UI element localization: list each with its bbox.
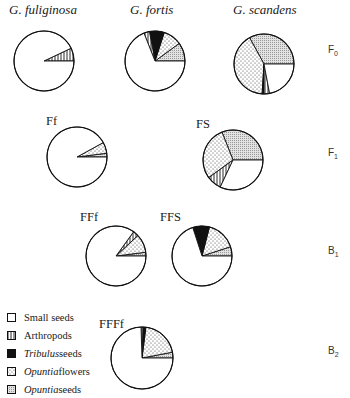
legend-item-tribulus-seeds: Tribulus seeds: [7, 344, 90, 362]
legend: Small seeds Arthropods Tribulus seeds Op…: [7, 308, 90, 398]
legend-item-opuntia-seeds: Opuntia seeds: [7, 380, 90, 398]
pie-slice-opuntia-flowers: [142, 327, 172, 358]
arthropods-swatch-icon: [7, 331, 16, 340]
legend-item-small-seeds: Small seeds: [7, 308, 90, 326]
opuntia-flowers-swatch-icon: [7, 367, 16, 376]
small-seeds-swatch-icon: [7, 313, 16, 322]
legend-item-arthropods: Arthropods: [7, 326, 90, 344]
legend-item-opuntia-flowers: Opuntia flowers: [7, 362, 90, 380]
tribulus-seeds-swatch-icon: [7, 349, 16, 358]
opuntia-seeds-swatch-icon: [7, 385, 16, 394]
